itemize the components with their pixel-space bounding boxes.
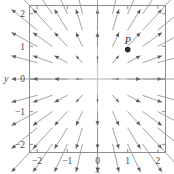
y-tick-label: −1 (15, 107, 25, 117)
y-tick-label: −2 (15, 140, 25, 150)
point-label-p: P (124, 35, 131, 46)
vector-field-figure: −2−1012−2−1012 y x P (0, 0, 174, 173)
point-marker-p (125, 47, 131, 53)
plot-canvas: −2−1012−2−1012 y x P (0, 0, 174, 173)
y-axis-label: y (3, 73, 9, 84)
y-tick-label: 2 (20, 9, 25, 19)
data-points (125, 47, 131, 53)
x-tick-label: 1 (125, 156, 130, 166)
x-tick-label: 2 (156, 156, 161, 166)
y-tick-label: 1 (20, 42, 25, 52)
y-tick-label: 0 (20, 74, 25, 84)
x-tick-label: −2 (32, 156, 42, 166)
x-axis-label: x (95, 164, 101, 174)
x-tick-label: −1 (62, 156, 72, 166)
